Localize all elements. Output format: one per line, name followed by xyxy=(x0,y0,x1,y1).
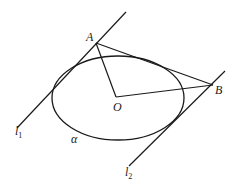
label-point-O: O xyxy=(113,101,122,113)
segment-AB xyxy=(96,43,213,85)
line-l1 xyxy=(17,12,126,128)
label-l2-subscript: 2 xyxy=(128,172,132,181)
geometry-figure xyxy=(0,0,239,189)
diagram-canvas: A B O α l1 l2 xyxy=(0,0,239,189)
label-l1-subscript: 1 xyxy=(18,131,22,140)
ellipse-alpha xyxy=(52,56,184,140)
label-l1: l1 xyxy=(15,125,22,140)
label-point-A: A xyxy=(86,31,93,43)
segment-OB xyxy=(116,85,213,97)
segment-OA xyxy=(96,43,116,97)
label-l2: l2 xyxy=(125,166,132,181)
label-alpha: α xyxy=(71,133,77,145)
label-point-B: B xyxy=(215,84,222,96)
